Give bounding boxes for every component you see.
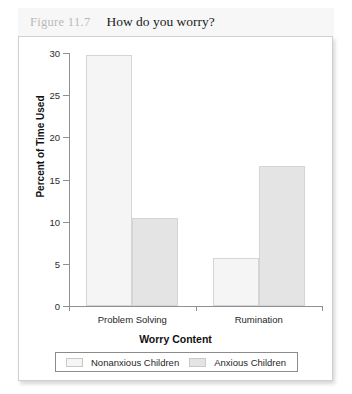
legend-label: Anxious Children [214, 357, 286, 368]
x-axis-tick [69, 306, 70, 311]
y-axis-tick-label: 5 [22, 258, 60, 269]
y-axis-tick-label: 15 [22, 174, 60, 185]
legend-swatch [189, 358, 206, 367]
y-axis-tick-label: 25 [22, 90, 60, 101]
y-axis-tick-label: 10 [22, 216, 60, 227]
legend-entry: Nonanxious Children [56, 357, 179, 368]
x-axis-tick [322, 306, 323, 311]
x-axis-title: Worry Content [19, 333, 332, 345]
figure-container: Figure 11.7 How do you worry? Percent of… [0, 0, 352, 394]
y-axis-tick-label: 0 [22, 301, 60, 312]
x-axis-category-label: Problem Solving [98, 314, 167, 325]
x-axis-tick [196, 306, 197, 311]
y-axis-tick-label: 30 [22, 48, 60, 59]
bar [132, 218, 178, 306]
figure-title: How do you worry? [106, 14, 214, 30]
figure-number: Figure 11.7 [30, 15, 90, 30]
legend-entry: Anxious Children [179, 357, 297, 368]
bar [86, 55, 132, 306]
y-axis-title: Percent of Time Used [35, 82, 46, 212]
chart-legend: Nonanxious ChildrenAnxious Children [55, 352, 298, 372]
figure-caption: Figure 11.7 How do you worry? [18, 8, 334, 36]
x-axis-category-label: Rumination [235, 314, 283, 325]
chart-panel: Percent of Time Used 051015202530 Proble… [18, 36, 333, 381]
legend-label: Nonanxious Children [91, 357, 179, 368]
y-axis-tick-label: 20 [22, 132, 60, 143]
bar [213, 258, 259, 306]
plot-area [69, 53, 322, 306]
legend-swatch [66, 358, 83, 367]
bar [259, 166, 305, 306]
